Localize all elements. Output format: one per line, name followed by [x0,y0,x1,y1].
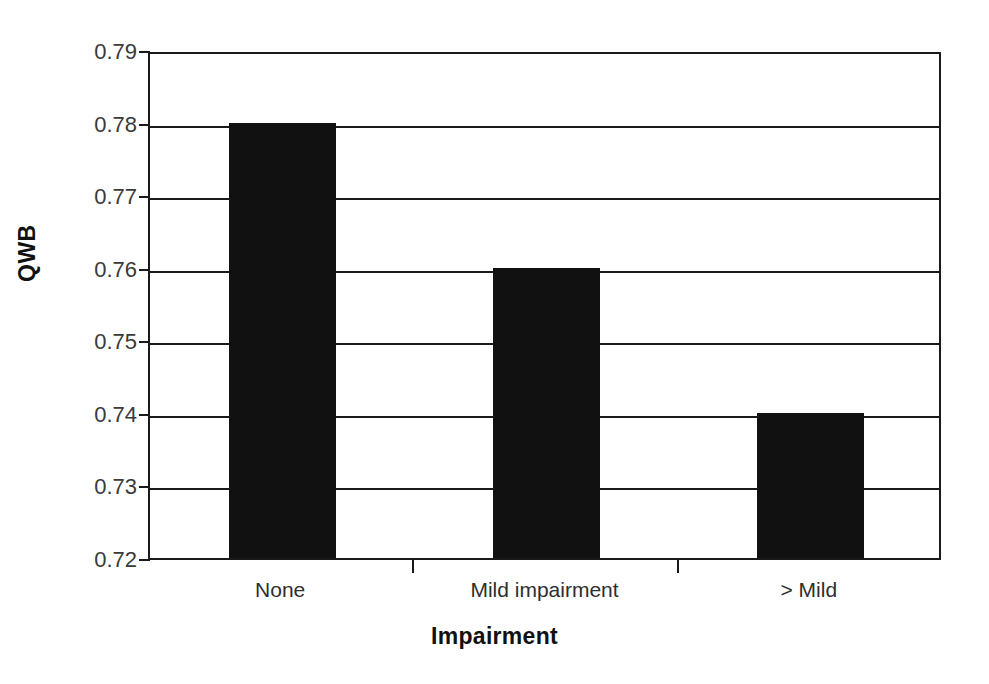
y-axis-tick-label: 0.79 [17,41,137,63]
y-axis-title: QWB [14,224,41,282]
y-axis-tick-label: 0.73 [17,476,137,498]
bar [493,268,600,558]
bar [229,123,336,558]
y-axis-tick-label: 0.77 [17,186,137,208]
x-axis-tick-mark [412,560,414,573]
x-axis-tick-mark [677,560,679,573]
x-axis-category-label: > Mild [781,578,838,602]
y-axis-tick-label: 0.74 [17,404,137,426]
x-axis-category-label: Mild impairment [470,578,618,602]
y-axis-tick-label: 0.75 [17,331,137,353]
bar-chart-figure: 0.720.730.740.750.760.770.780.79 QWB Non… [0,0,989,684]
x-axis-category-label: None [255,578,305,602]
plot-area [148,52,941,560]
bars-group [150,54,939,558]
bar [757,413,864,558]
y-axis-tick-label: 0.72 [17,549,137,571]
x-axis-title: Impairment [0,623,989,650]
y-axis-tick-label: 0.78 [17,114,137,136]
